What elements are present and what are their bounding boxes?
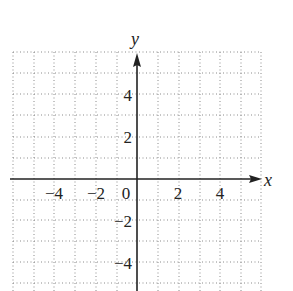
y-tick-label: −4 <box>114 254 133 273</box>
x-tick-label: 0 <box>122 184 131 203</box>
y-tick-label: 4 <box>124 86 133 105</box>
x-tick-label: −4 <box>45 184 64 203</box>
y-tick-label: 2 <box>124 128 133 147</box>
y-tick-label: −2 <box>114 212 132 231</box>
x-tick-label: −2 <box>87 184 105 203</box>
coordinate-plane: x y −4 −2 0 2 4 4 2 −2 −4 <box>0 0 293 291</box>
y-axis-arrow-icon <box>133 53 141 67</box>
x-axis-label: x <box>263 170 272 190</box>
y-axis-label: y <box>129 29 139 49</box>
x-tick-label: 4 <box>216 184 225 203</box>
x-tick-label: 2 <box>174 184 183 203</box>
